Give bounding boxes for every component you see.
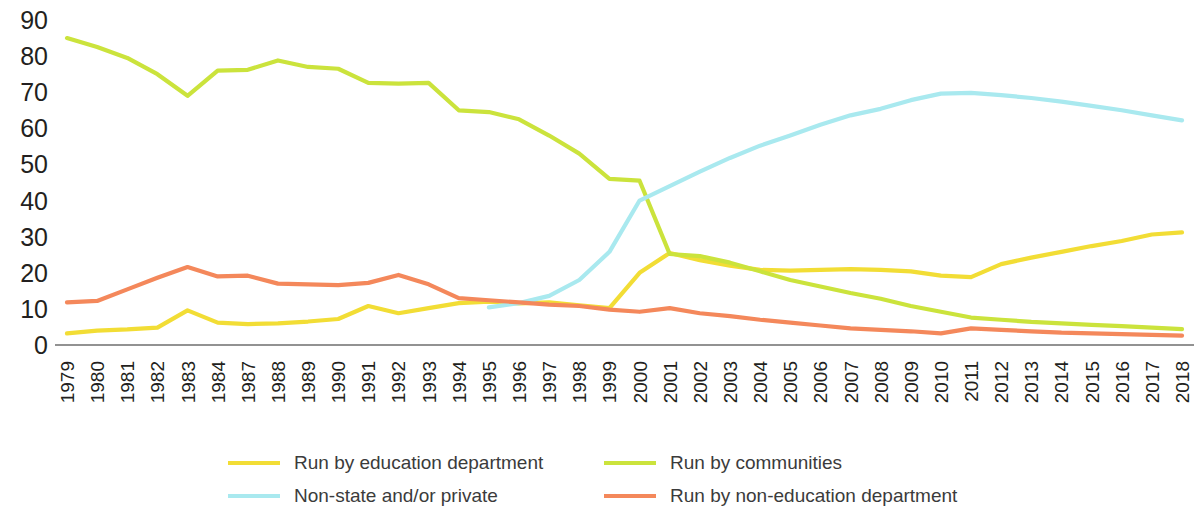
y-tick-label: 10 <box>20 295 48 323</box>
x-tick-label: 2015 <box>1082 361 1103 403</box>
x-tick-label: 2014 <box>1051 361 1072 404</box>
x-tick-label: 2008 <box>871 361 892 403</box>
y-tick-label: 90 <box>20 6 48 34</box>
legend-label: Run by non-education department <box>670 485 958 506</box>
x-tick-label: 2001 <box>660 361 681 403</box>
x-axis: 1979198019811982198319841987198819891990… <box>57 361 1193 404</box>
y-tick-label: 30 <box>20 223 48 251</box>
x-tick-label: 1997 <box>539 361 560 403</box>
x-tick-label: 1988 <box>268 361 289 403</box>
x-tick-label: 2004 <box>750 361 771 404</box>
x-tick-label: 2002 <box>690 361 711 403</box>
x-tick-label: 2006 <box>810 361 831 403</box>
series-line-1 <box>67 38 1182 329</box>
chart-legend: Run by education departmentRun by commun… <box>228 452 958 506</box>
x-tick-label: 1979 <box>57 361 78 403</box>
x-tick-label: 2000 <box>630 361 651 403</box>
x-tick-label: 2003 <box>720 361 741 403</box>
x-tick-label: 2017 <box>1142 361 1163 403</box>
x-tick-label: 1994 <box>449 361 470 404</box>
line-chart: 0102030405060708090 19791980198119821983… <box>0 0 1196 515</box>
x-tick-label: 2005 <box>780 361 801 403</box>
x-tick-label: 1990 <box>328 361 349 403</box>
y-tick-label: 50 <box>20 150 48 178</box>
x-tick-label: 1989 <box>298 361 319 403</box>
y-tick-label: 20 <box>20 259 48 287</box>
legend-label: Non-state and/or private <box>294 485 498 506</box>
y-tick-label: 40 <box>20 187 48 215</box>
x-tick-label: 1995 <box>479 361 500 403</box>
series-line-2 <box>489 93 1182 308</box>
series-lines <box>67 38 1182 336</box>
x-tick-label: 1982 <box>147 361 168 403</box>
x-tick-label: 1984 <box>208 361 229 404</box>
y-tick-label: 80 <box>20 42 48 70</box>
x-tick-label: 1998 <box>569 361 590 403</box>
plot-area: 0102030405060708090 19791980198119821983… <box>0 0 1196 515</box>
legend-label: Run by communities <box>670 452 842 473</box>
y-axis: 0102030405060708090 <box>20 6 48 359</box>
x-tick-label: 1980 <box>87 361 108 403</box>
y-tick-label: 70 <box>20 78 48 106</box>
y-tick-label: 60 <box>20 114 48 142</box>
x-tick-label: 1996 <box>509 361 530 403</box>
legend-label: Run by education department <box>294 452 544 473</box>
y-tick-label: 0 <box>34 331 48 359</box>
x-tick-label: 2016 <box>1112 361 1133 403</box>
x-tick-label: 2011 <box>961 361 982 402</box>
x-tick-label: 1987 <box>238 361 259 403</box>
x-tick-label: 2013 <box>1021 361 1042 403</box>
series-line-0 <box>67 232 1182 333</box>
x-tick-label: 2012 <box>991 361 1012 403</box>
x-tick-label: 1983 <box>178 361 199 403</box>
chart-canvas: 0102030405060708090 19791980198119821983… <box>0 0 1196 515</box>
x-tick-label: 1991 <box>358 361 379 403</box>
x-tick-label: 1999 <box>599 361 620 403</box>
x-tick-label: 2007 <box>841 361 862 403</box>
x-tick-label: 2009 <box>901 361 922 403</box>
x-tick-label: 1993 <box>419 361 440 403</box>
x-tick-label: 1981 <box>117 361 138 403</box>
x-tick-label: 2018 <box>1172 361 1193 403</box>
x-tick-label: 1992 <box>388 361 409 403</box>
x-tick-label: 2010 <box>931 361 952 403</box>
